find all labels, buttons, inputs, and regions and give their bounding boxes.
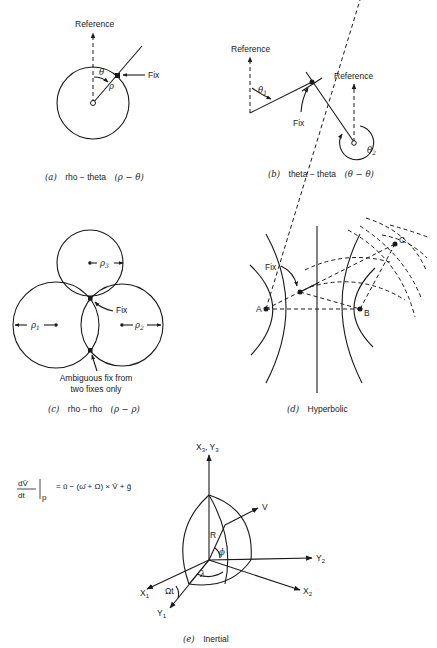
- theta2-symbol: θ2: [367, 145, 376, 156]
- caption-d: (d) Hyperbolic: [287, 398, 348, 415]
- axis-x1-label: X1: [140, 588, 150, 599]
- fix-point: [310, 80, 315, 85]
- phi-label: ϕ: [219, 547, 225, 557]
- svg-text:dt: dt: [18, 491, 25, 500]
- station-a: [264, 307, 269, 312]
- svg-text:= ū − (ω̄ + Ω) × V̄ + ḡ: = ū − (ω̄ + Ω) × V̄ + ḡ: [56, 482, 131, 491]
- fix-to-b: [300, 292, 360, 309]
- radius-label: R: [210, 530, 216, 540]
- fix-label: Fix: [293, 118, 305, 128]
- rho2-label: ρ2: [134, 320, 144, 331]
- baseline-ac: [266, 244, 395, 309]
- station-marker: [352, 141, 357, 146]
- station-c-label: C: [399, 235, 405, 245]
- caption-b: (b) theta − theta (θ − θ): [268, 163, 374, 180]
- reference-label: Reference: [75, 19, 114, 29]
- axis-y2-label: Y2: [316, 553, 326, 564]
- rho1-label: ρ1: [30, 320, 40, 331]
- panel-c-rho-rho: ρ3 ρ1 ρ2 Fix Ambiguous fix from two fixe…: [13, 230, 163, 415]
- ambiguous-fix-label: Ambiguous fix from: [60, 373, 133, 383]
- center-2: [120, 323, 124, 327]
- caption-e: (e) Inertial: [183, 628, 229, 645]
- panel-d-hyperbolic: A B C Fix (d) Hyperbolic: [250, 0, 430, 415]
- velocity-label: V: [262, 502, 268, 512]
- fix-arrow: [95, 302, 113, 311]
- fix-crossing: [300, 283, 318, 292]
- fix-arrow: [301, 88, 308, 112]
- theta-arc: [94, 77, 108, 82]
- fix-label: Fix: [116, 305, 128, 315]
- axis-x3-y3-label: X3, Y3: [196, 442, 219, 453]
- fix-point: [88, 296, 93, 301]
- caption-a: (a) rho − theta (ρ − θ): [45, 166, 144, 183]
- caption-c: (c) rho − rho (ρ − ρ): [48, 398, 140, 415]
- station-c: [393, 242, 398, 247]
- theta-symbol: θ: [99, 67, 104, 77]
- theta1-symbol: θ1: [258, 85, 267, 96]
- fix-point: [115, 73, 120, 78]
- baseline-bc: [360, 244, 395, 309]
- center-3: [88, 261, 92, 265]
- station-b: [358, 307, 363, 312]
- station-a-label: A: [256, 304, 262, 314]
- ambiguous-fix-label-2: two fixes only: [70, 384, 122, 394]
- svg-text:dV̄: dV̄: [18, 479, 28, 488]
- reference-right-label: Reference: [334, 71, 373, 81]
- station-marker: [91, 101, 96, 106]
- fix-label: Fix: [148, 70, 160, 80]
- rho3-label: ρ3: [99, 258, 109, 269]
- axis-y1-label: Y1: [157, 608, 167, 619]
- axis-y2: [209, 558, 312, 560]
- panel-b-theta-theta: Reference θ1 Fix Reference θ2 (b) theta …: [231, 44, 376, 180]
- station-b-label: B: [364, 308, 370, 318]
- panel-a-rho-theta: Reference Fix θ ρ (a) rho − theta (ρ − θ…: [45, 19, 160, 183]
- reference-left-label: Reference: [231, 44, 270, 54]
- axis-x2-label: X2: [303, 586, 313, 597]
- lambda-label: λ: [199, 569, 205, 579]
- omega-t-arc: [176, 586, 179, 598]
- sphere-outline-right: [209, 495, 251, 560]
- fix-label: Fix: [265, 262, 277, 272]
- fix-point: [298, 290, 303, 295]
- axis-x2: [209, 560, 300, 590]
- panel-e-inertial: dV̄ dt p = ū − (ω̄ + Ω) × V̄ + ḡ X3, Y3 …: [17, 442, 326, 645]
- equation: dV̄ dt p = ū − (ω̄ + Ω) × V̄ + ḡ: [17, 479, 131, 502]
- svg-text:p: p: [42, 493, 47, 502]
- omega-t-label: Ωt: [165, 586, 174, 596]
- velocity-vector: [225, 508, 258, 525]
- ambiguous-fix-point: [88, 348, 93, 353]
- center-1: [54, 323, 58, 327]
- rho-symbol: ρ: [108, 81, 114, 91]
